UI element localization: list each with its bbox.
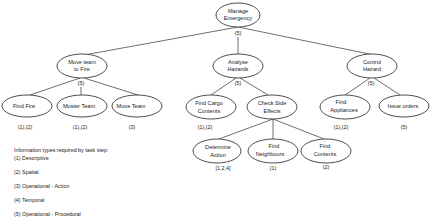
node-label: Contents [198,108,221,114]
node-label: Emergency [224,15,252,21]
node-move-team-to-fire: Move team to Fire [57,54,107,78]
legend-item: (5) Operational - Procedural [14,212,108,217]
node-muster-team: Muster Team [57,95,107,117]
edge-analyse-findcargo [211,78,236,95]
node-label: Issue orders [388,103,419,109]
info-label: (2) [323,164,330,170]
info-label: (1),(2) [334,124,349,130]
plan-label: (5) [78,80,85,86]
node-issue-orders: Issue orders [379,95,429,117]
plan-label: (5) [235,80,242,86]
node-label: Move team [68,59,96,65]
info-label: (5) [401,124,408,130]
node-determine-action: Determine Action [193,139,241,163]
node-manage-emergency: Manage Emergency [216,3,260,27]
legend-item: (3) Operational - Action [14,184,108,189]
edge-root-control-hazard [238,27,374,55]
node-label: to Fire [74,66,90,72]
node-label: Find Fire [13,103,35,109]
info-label: (1),(2) [198,124,213,130]
node-find-cargo-contents: Find Cargo Contents [186,95,236,119]
info-label: (3) [129,124,136,130]
node-label: Muster Team [63,103,96,109]
legend-title: Information types required by task step: [14,148,108,153]
node-label: Analyse [228,59,248,65]
node-label: Neighbours [256,151,285,157]
edge-moveteam-moveteam [84,78,138,95]
edge-checkside-determine [219,119,273,139]
node-control-hazard: Control Hazard [347,54,397,78]
plan-label: (5) [368,80,375,86]
node-move-team: Move Team [112,95,162,117]
node-label: Contents [314,151,337,157]
edge-root-move-team [84,27,238,55]
legend: Information types required by task step:… [14,148,108,221]
node-find-fire: Find Fire [2,95,52,117]
edge-control-issueorders [374,78,400,95]
node-label: Action [210,152,226,158]
edge-analyse-checkside [240,78,268,95]
node-label: Find Cargo [195,100,223,106]
node-label: Determine [205,144,231,150]
node-label: Find [320,143,331,149]
node-find-appliances: Find Appliances [320,95,370,119]
node-find-contents: Find Contents [301,139,351,163]
node-label: Manage [228,8,248,14]
node-label: Hazards [228,66,249,72]
info-label: (1),(2) [73,124,88,130]
node-check-side-effects: Check Side Effects [247,95,297,119]
legend-item: (1) Descriptive [14,156,108,161]
node-label: Find [269,143,280,149]
node-label: Control [363,59,381,65]
node-find-neighbours: Find Neighbours [248,139,298,163]
legend-item: (4) Temporal [14,198,108,203]
edge-checkside-contents [273,119,324,139]
node-label: Hazard [363,66,381,72]
node-analyse-hazards: Analyse Hazards [213,54,263,78]
edge-moveteam-findfire [30,78,80,95]
legend-item: (2) Spatial [14,170,108,175]
edge-control-findappliances [345,78,370,95]
node-label: Check Side [258,100,287,106]
node-label: Appliances [330,107,358,113]
node-label: Move Team [117,103,146,109]
node-label: Effects [264,108,281,114]
info-label: (1) [270,165,277,171]
info-label: (1),(2) [18,124,33,130]
node-label: Find [336,99,347,105]
info-label: [1,2,4] [216,165,231,171]
plan-label: (5) [235,30,242,36]
